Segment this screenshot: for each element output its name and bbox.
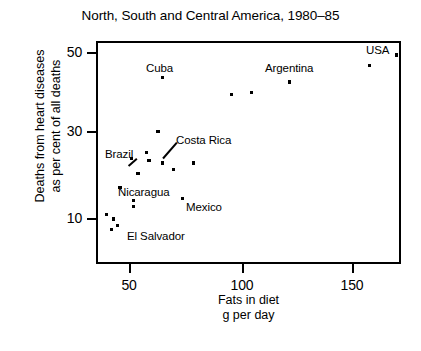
data-point-7 [136,172,139,175]
x-tick-mark-100 [242,264,244,273]
data-point-20 [368,64,371,67]
data-point-11 [156,130,159,133]
data-point-17 [230,93,233,96]
y-tick-mark-30 [87,131,96,133]
x-axis-title-line2: g per day [96,308,401,323]
label-cuba: Cuba [146,62,173,74]
data-point-cuba [161,76,164,79]
x-tick-mark-50 [129,264,131,273]
x-axis-title-line1: Fats in diet [96,293,401,308]
data-point-el-salvador [116,224,119,227]
data-point-9 [145,151,148,154]
data-point-argentina [288,80,291,83]
label-usa: USA [366,44,389,56]
label-argentina: Argentina [265,62,313,74]
x-tick-mark-150 [352,264,354,273]
data-point-18 [250,91,253,94]
data-point-5 [132,199,135,202]
data-point-6 [132,205,135,208]
label-brazil: Brazil [105,148,133,160]
data-point-16 [192,161,195,164]
scatter-chart: North, South and Central America, 1980–8… [0,0,421,351]
x-tick-label-100: 100 [212,277,272,293]
y-tick-label-30: 30 [44,123,82,139]
data-point-14 [172,168,175,171]
x-tick-label-50: 50 [99,277,159,293]
data-point-10 [147,159,150,162]
y-tick-label-10: 10 [44,210,82,226]
x-axis-title: Fats in diet g per day [96,293,401,323]
data-point-1 [110,228,113,231]
label-el-salvador: El Salvador [127,230,185,242]
label-mexico: Mexico [186,201,222,213]
y-tick-label-50: 50 [44,44,82,60]
label-costa-rica: Costa Rica [176,134,231,146]
y-tick-mark-50 [87,52,96,54]
data-point-usa [395,53,398,56]
data-point-2 [112,217,115,220]
data-point-0 [105,213,108,216]
data-point-mexico [181,197,184,200]
label-nicaragua: Nicaragua [118,186,170,198]
x-tick-label-150: 150 [322,277,382,293]
data-point-costa-rica [161,161,164,164]
y-tick-mark-10 [87,218,96,220]
